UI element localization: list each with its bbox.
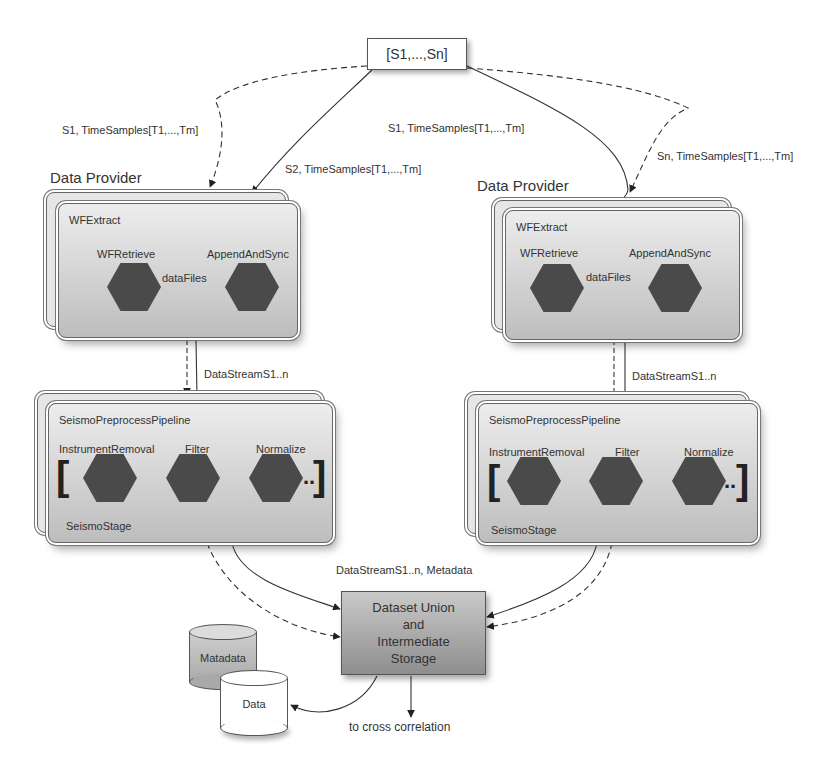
- edge-label-stream-left: DataStreamS1..n: [204, 368, 288, 380]
- node-label-appendandsync-right: AppendAndSync: [629, 247, 711, 259]
- node-label-normalize-right: Normalize: [684, 446, 734, 458]
- metadata-store-top: [189, 624, 257, 640]
- edge-pipeline-union-right-solid: [487, 543, 597, 617]
- edge-label-datafiles-right: dataFiles: [586, 271, 631, 283]
- edge-label-datafiles-left: dataFiles: [162, 272, 207, 284]
- union-line-1: Dataset Union: [372, 599, 454, 616]
- stage-label-left: SeismoStage: [66, 520, 131, 532]
- edge-pipeline-union-left-solid: [232, 543, 340, 609]
- pipeline-box-left: SeismoPreprocessPipeline InstrumentRemov…: [48, 403, 333, 543]
- stage-label-right: SeismoStage: [491, 524, 556, 536]
- data-store-label: Data: [220, 698, 288, 710]
- node-label-instrumentremoval-right: InstrumentRemoval: [489, 446, 584, 458]
- edge-label-right-dashed: Sn, TimeSamples[T1,...,Tm]: [657, 150, 793, 162]
- extract-box-left: WFExtract WFRetrieve AppendAndSync dataF…: [58, 203, 298, 338]
- union-line-4: Storage: [391, 650, 437, 667]
- edge-label-right-solid: S1, TimeSamples[T1,...,Tm]: [388, 122, 524, 134]
- edge-pipeline-union-right-dashed: [487, 543, 612, 627]
- node-label-instrumentremoval-left: InstrumentRemoval: [59, 443, 154, 455]
- edge-union-datastore: [291, 676, 377, 712]
- appendandsync-hex-icon: [225, 263, 279, 311]
- extract-title-right: WFExtract: [516, 221, 567, 233]
- wfretrieve-hex-icon: [107, 263, 161, 311]
- node-label-filter-left: Filter: [185, 443, 209, 455]
- close-bracket-left: ]: [313, 456, 326, 496]
- wfretrieve-hex-icon: [530, 264, 584, 312]
- instrumentremoval-hex-icon: [507, 457, 561, 505]
- union-line-2: and: [403, 616, 425, 633]
- edge-label-left-solid: S2, TimeSamples[T1,...,Tm]: [285, 163, 421, 175]
- node-label-wfretrieve-left: WFRetrieve: [97, 248, 155, 260]
- dataset-union-node: Dataset Union and Intermediate Storage: [341, 591, 486, 675]
- node-label-filter-right: Filter: [615, 446, 639, 458]
- extract-box-right: WFExtract WFRetrieve AppendAndSync dataF…: [505, 210, 740, 340]
- pipeline-title-right: SeismoPreprocessPipeline: [489, 414, 620, 426]
- instrumentremoval-hex-icon: [83, 454, 137, 502]
- open-bracket-left: [: [56, 456, 69, 496]
- filter-hex-icon: [589, 457, 643, 505]
- provider-title-left: Data Provider: [50, 169, 142, 186]
- metadata-store-label: Matadata: [189, 652, 257, 664]
- data-store-bottom: [220, 720, 288, 736]
- node-label-appendandsync-left: AppendAndSync: [207, 248, 289, 260]
- normalize-hex-icon: [672, 457, 726, 505]
- edge-pipeline-union-left-dashed: [207, 543, 340, 637]
- pipeline-box-right: SeismoPreprocessPipeline InstrumentRemov…: [478, 403, 758, 543]
- union-line-3: Intermediate: [377, 633, 449, 650]
- appendandsync-hex-icon: [648, 264, 702, 312]
- edge-label-union-input: DataStreamS1..n, Metadata: [336, 564, 472, 576]
- data-store-icon: Data: [220, 670, 288, 736]
- node-label-wfretrieve-right: WFRetrieve: [520, 247, 578, 259]
- edge-label-output: to cross correlation: [349, 720, 450, 734]
- station-list-node: [S1,...,Sn]: [367, 38, 467, 70]
- close-bracket-right: ]: [736, 460, 749, 500]
- filter-hex-icon: [166, 454, 220, 502]
- open-bracket-right: [: [487, 460, 500, 500]
- provider-title-right: Data Provider: [477, 177, 569, 194]
- node-label-normalize-left: Normalize: [256, 443, 306, 455]
- edge-extract-pipeline-left-solid: [196, 340, 197, 397]
- station-list-label: [S1,...,Sn]: [386, 46, 447, 62]
- edge-label-stream-right: DataStreamS1..n: [632, 370, 716, 382]
- normalize-hex-icon: [249, 454, 303, 502]
- extract-title-left: WFExtract: [69, 214, 120, 226]
- data-store-top: [220, 670, 288, 686]
- ellipsis-right: ..: [724, 470, 736, 492]
- edge-label-left-dashed: S1, TimeSamples[T1,...,Tm]: [62, 124, 198, 136]
- pipeline-title-left: SeismoPreprocessPipeline: [59, 414, 190, 426]
